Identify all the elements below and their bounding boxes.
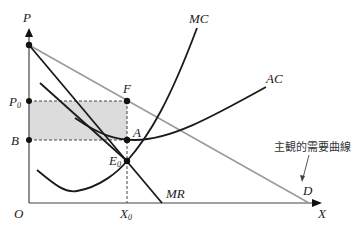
monopoly-diagram: P X O P0 B X0 F A E0 D MC AC MR 主観的需要曲線 — [0, 0, 362, 227]
b-label: B — [11, 133, 19, 148]
y-axis-arrow-icon — [25, 28, 33, 37]
d-label: D — [302, 183, 313, 198]
b-point — [26, 137, 32, 143]
f-label: F — [122, 81, 132, 96]
top-intercept-point — [26, 42, 32, 48]
ac-label: AC — [265, 71, 283, 86]
p0-label: P0 — [8, 94, 21, 110]
x0-label: X0 — [119, 206, 132, 222]
a-label: A — [132, 125, 141, 140]
a-point — [124, 137, 130, 143]
annotation-arrowhead-icon — [300, 175, 305, 182]
y-axis-label: P — [22, 10, 31, 25]
mr-label: MR — [165, 186, 185, 201]
origin-label: O — [14, 206, 24, 221]
subjective-demand-annotation: 主観的需要曲線 — [274, 140, 351, 154]
p0-point — [26, 98, 32, 104]
mc-label: MC — [188, 11, 209, 26]
annotation-arrow — [303, 155, 309, 178]
e0-point — [124, 158, 130, 164]
x-axis-label: X — [317, 206, 327, 221]
f-point — [124, 98, 130, 104]
e0-label: E0 — [108, 153, 121, 169]
